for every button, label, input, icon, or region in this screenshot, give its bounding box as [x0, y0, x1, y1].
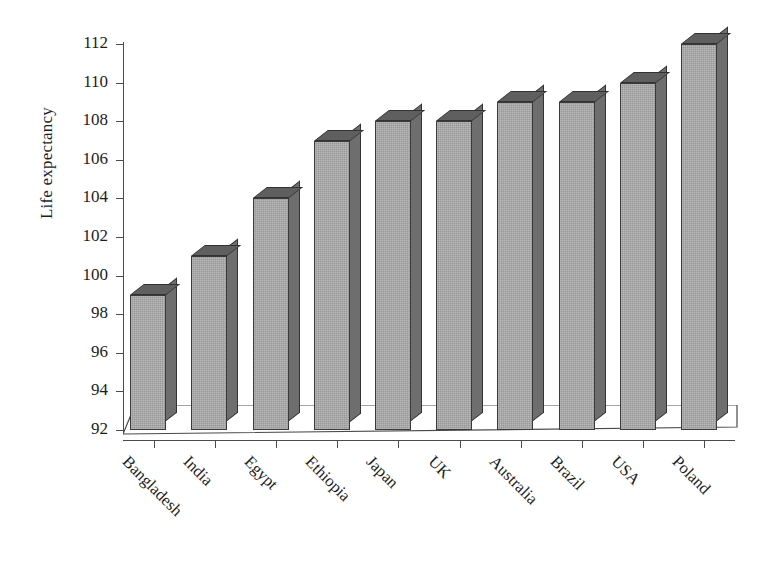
- y-axis-tick-mark: [116, 353, 124, 354]
- y-axis-tick-mark: [116, 314, 124, 315]
- x-axis-tick-labels: BangladeshIndiaEgyptEthiopiaJapanUKAustr…: [0, 0, 758, 561]
- y-axis-tick-mark: [116, 391, 124, 392]
- x-axis-tick-label: India: [179, 452, 217, 490]
- x-axis-tick-label: USA: [607, 452, 644, 489]
- x-axis-tick-label: Poland: [668, 452, 715, 499]
- y-axis-tick-mark: [116, 44, 124, 45]
- x-axis-tick-label: Brazil: [546, 452, 589, 495]
- y-axis-tick-mark: [116, 160, 124, 161]
- y-axis-tick-mark: [116, 121, 124, 122]
- x-axis-tick-mark: [276, 440, 277, 448]
- y-axis-tick-mark: [116, 430, 124, 431]
- x-axis-tick-mark: [704, 440, 705, 448]
- x-axis-tick-label: Australia: [485, 452, 542, 509]
- x-axis-tick-mark: [398, 440, 399, 448]
- x-axis-tick-mark: [154, 440, 155, 448]
- x-axis-tick-label: UK: [423, 452, 454, 483]
- x-axis-tick-mark: [215, 440, 216, 448]
- y-axis-tick-mark: [116, 276, 124, 277]
- y-axis-tick-mark: [116, 198, 124, 199]
- x-axis-tick-mark: [521, 440, 522, 448]
- y-axis-tick-mark: [116, 83, 124, 84]
- x-axis-tick-mark: [460, 440, 461, 448]
- x-axis-tick-mark: [337, 440, 338, 448]
- x-axis-tick-label: Japan: [362, 452, 403, 493]
- y-axis-tick-mark: [116, 237, 124, 238]
- x-axis-tick-label: Egypt: [240, 452, 282, 494]
- x-axis-tick-label: Bangladesh: [117, 452, 186, 521]
- x-axis-tick-mark: [643, 440, 644, 448]
- x-axis-tick-label: Ethiopia: [301, 452, 355, 506]
- x-axis-tick-mark: [582, 440, 583, 448]
- bar-chart: Life expectancy 112110108106104102100989…: [0, 0, 758, 561]
